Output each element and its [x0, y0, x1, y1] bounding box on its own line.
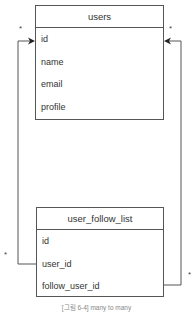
connector-follow-user-id-to-users-id	[164, 38, 181, 286]
multiplicity-users-left: *	[19, 25, 22, 33]
arrowhead-right-icon	[28, 38, 35, 45]
arrowhead-left-icon	[164, 38, 171, 45]
multiplicity-follow-right: *	[188, 271, 191, 279]
entity-users: users id name email profile	[35, 5, 164, 120]
field-users-email: email	[36, 73, 163, 96]
field-users-profile: profile	[36, 96, 163, 119]
field-user-follow-list-user-id: user_id	[37, 253, 163, 276]
entity-user-follow-list: user_follow_list id user_id follow_user_…	[36, 207, 164, 297]
multiplicity-follow-left: *	[4, 251, 7, 259]
field-user-follow-list-follow-user-id: follow_user_id	[37, 275, 163, 298]
field-user-follow-list-id: id	[37, 230, 163, 253]
entity-users-title: users	[36, 6, 163, 28]
entity-user-follow-list-title: user_follow_list	[37, 208, 163, 230]
multiplicity-users-right: *	[169, 25, 172, 33]
connector-user-id-to-users-id	[18, 38, 36, 265]
field-users-name: name	[36, 51, 163, 74]
field-users-id: id	[36, 28, 163, 51]
figure-caption: [그림 6-4] many to many	[0, 303, 193, 313]
